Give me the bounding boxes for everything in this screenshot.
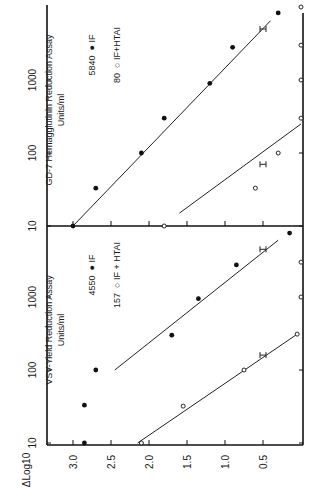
data-point bbox=[139, 151, 144, 156]
data-point bbox=[299, 5, 303, 9]
fit-line bbox=[115, 240, 278, 370]
legend-entry: 4550 ● IF bbox=[87, 254, 97, 295]
legend-entry: 157 ○ IF + HTAI bbox=[112, 242, 122, 308]
data-point bbox=[299, 78, 303, 82]
data-point bbox=[299, 43, 303, 47]
series-if bbox=[71, 11, 281, 229]
delta-log-tick-label: 2.5 bbox=[106, 455, 117, 469]
data-point bbox=[93, 368, 98, 373]
series-if-htai bbox=[138, 260, 303, 445]
series-if-htai bbox=[162, 5, 303, 228]
units-tick-label: 1000 bbox=[27, 285, 38, 308]
delta-log-tick-label: 2.0 bbox=[144, 455, 155, 469]
data-point bbox=[242, 368, 246, 372]
units-tick-label: 100 bbox=[27, 361, 38, 378]
data-point bbox=[295, 332, 299, 336]
data-point bbox=[234, 263, 239, 268]
data-point bbox=[207, 81, 212, 86]
data-point bbox=[287, 231, 292, 236]
figure: 3.02.52.01.51.00.5ΔLog101010010001010010… bbox=[0, 0, 313, 493]
panel-title: GD-7 Hemagglutinin Reduction Assay bbox=[44, 34, 54, 186]
panel-subtitle: Units/ml bbox=[56, 314, 66, 347]
delta-log-tick-label: 1.5 bbox=[182, 455, 193, 469]
data-point bbox=[196, 296, 201, 301]
units-tick-label: 10 bbox=[27, 437, 38, 449]
legend-entry: 5840 ● IF bbox=[87, 34, 97, 75]
delta-log-tick-label: 0.5 bbox=[258, 455, 269, 469]
data-point bbox=[82, 441, 87, 446]
data-point bbox=[71, 224, 76, 229]
fit-line bbox=[138, 334, 298, 443]
legend-entry: 80 ○ IF+HTAI bbox=[112, 27, 122, 83]
data-point bbox=[162, 224, 166, 228]
data-point bbox=[276, 151, 280, 155]
panel-title: VSV-Yield Reduction Assay bbox=[44, 275, 54, 385]
data-point bbox=[162, 116, 167, 121]
data-point bbox=[253, 186, 257, 190]
data-point bbox=[276, 11, 281, 16]
data-point bbox=[93, 186, 98, 191]
units-tick-label: 1000 bbox=[27, 68, 38, 91]
data-point bbox=[181, 404, 185, 408]
units-tick-label: 10 bbox=[27, 220, 38, 232]
plot-frame bbox=[47, 5, 303, 445]
data-point bbox=[299, 116, 303, 120]
data-point bbox=[82, 403, 87, 408]
delta-log-tick-label: 3.0 bbox=[68, 455, 79, 469]
y-axis-label: ΔLog10 bbox=[21, 452, 32, 487]
fit-line bbox=[73, 21, 271, 226]
delta-log-tick-label: 1.0 bbox=[220, 455, 231, 469]
units-tick-label: 100 bbox=[27, 144, 38, 161]
data-point bbox=[139, 441, 143, 445]
data-point bbox=[299, 295, 303, 299]
data-point bbox=[230, 45, 235, 50]
fit-line bbox=[179, 124, 301, 213]
panel-subtitle: Units/ml bbox=[56, 94, 66, 127]
data-point bbox=[169, 333, 174, 338]
data-point bbox=[299, 260, 303, 264]
